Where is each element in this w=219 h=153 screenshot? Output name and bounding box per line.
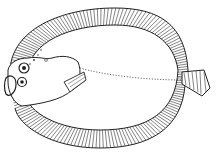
lateral-line <box>80 68 183 80</box>
flatfish-illustration <box>0 0 219 153</box>
fish-drawing <box>0 0 219 153</box>
upper-pupil <box>22 66 26 70</box>
lower-pupil <box>20 80 24 84</box>
